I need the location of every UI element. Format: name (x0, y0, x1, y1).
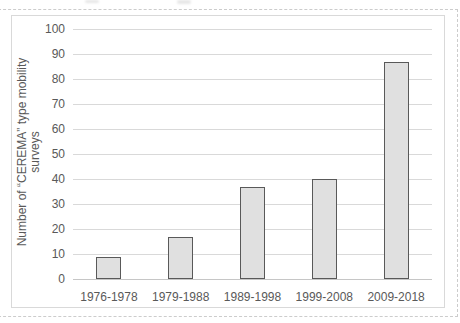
gridline-y-70 (73, 104, 432, 105)
x-axis-category-label-1979-1988: 1979-1988 (145, 290, 217, 304)
gridline-y-80 (73, 79, 432, 80)
y-tick-label-70: 70 (25, 97, 65, 111)
y-tick-label-0: 0 (25, 272, 65, 286)
cropped-text-remnant (177, 0, 191, 4)
bar-2009-2018[interactable] (384, 62, 409, 280)
cropped-text-remnant (85, 0, 99, 3)
x-axis-category-label-1976-1978: 1976-1978 (73, 290, 145, 304)
gridline-y-50 (73, 154, 432, 155)
y-tick-label-80: 80 (25, 72, 65, 86)
y-tick-label-20: 20 (25, 222, 65, 236)
page-background: { "chart_data": { "type": "bar", "catego… (0, 0, 460, 323)
gridline-y-100 (73, 29, 432, 30)
x-axis-category-label-2009-2018: 2009-2018 (360, 290, 432, 304)
y-tick-label-10: 10 (25, 247, 65, 261)
gridline-y-60 (73, 129, 432, 130)
y-tick-label-50: 50 (25, 147, 65, 161)
bar-1976-1978[interactable] (96, 257, 121, 280)
x-axis-line (73, 279, 432, 280)
gridline-y-90 (73, 54, 432, 55)
gridline-y-40 (73, 179, 432, 180)
y-tick-label-90: 90 (25, 47, 65, 61)
y-tick-label-60: 60 (25, 122, 65, 136)
x-axis-category-label-1999-2008: 1999-2008 (288, 290, 360, 304)
bar-chart[interactable]: Number of “CEREMA” type mobility surveys… (11, 15, 445, 308)
bar-1979-1988[interactable] (168, 237, 193, 280)
x-axis-category-label-1989-1998: 1989-1998 (217, 290, 289, 304)
bar-1989-1998[interactable] (240, 187, 265, 280)
bar-1999-2008[interactable] (312, 179, 337, 279)
y-tick-label-40: 40 (25, 172, 65, 186)
y-tick-label-100: 100 (25, 22, 65, 36)
y-tick-label-30: 30 (25, 197, 65, 211)
